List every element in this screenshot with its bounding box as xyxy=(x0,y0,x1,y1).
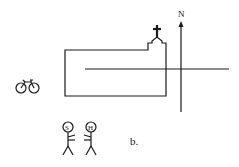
north-arrow xyxy=(179,21,184,112)
diagram-canvas: N S H b. xyxy=(0,0,239,167)
church-building xyxy=(65,37,166,96)
bicycle-icon xyxy=(16,80,39,93)
cross-icon xyxy=(153,25,161,37)
caption: b. xyxy=(130,135,139,147)
figure-label-h: H xyxy=(88,124,93,132)
figure-label-s: S xyxy=(65,124,69,132)
compass-label: N xyxy=(178,9,185,19)
